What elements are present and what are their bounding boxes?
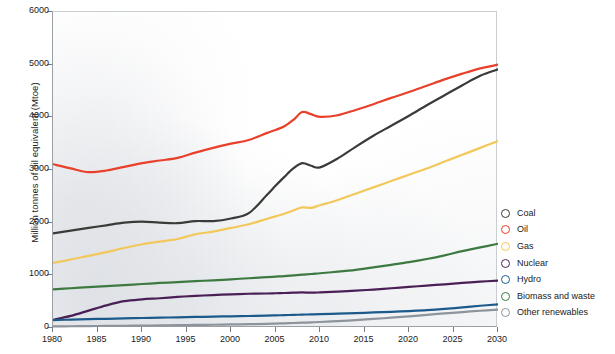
series-lines	[53, 12, 498, 328]
x-axis-tick-label: 1985	[77, 334, 117, 344]
y-axis-tick-label: 6000	[3, 5, 49, 15]
x-axis-tick	[319, 327, 320, 332]
x-axis-tick-label: 1980	[32, 334, 72, 344]
chart-figure: Million tonnes of oil equivalent (Mtoe) …	[0, 0, 615, 354]
figure-caption	[6, 347, 336, 354]
y-axis-tick-label: 2000	[3, 216, 49, 226]
x-axis-tick	[97, 327, 98, 332]
legend-item-nuclear[interactable]: Nuclear	[501, 255, 595, 272]
y-axis-tick-label: 0	[3, 321, 49, 331]
x-axis-tick	[186, 327, 187, 332]
x-axis-tick	[364, 327, 365, 332]
series-line-coal	[53, 69, 498, 233]
y-axis-tick-label: 5000	[3, 58, 49, 68]
y-axis-tick-label: 3000	[3, 163, 49, 173]
legend-marker-icon	[501, 209, 510, 218]
series-line-gas	[53, 141, 498, 263]
legend-item-coal[interactable]: Coal	[501, 205, 595, 222]
series-line-hydro	[53, 304, 498, 320]
x-axis-tick-label: 1995	[166, 334, 206, 344]
legend-item-hydro[interactable]: Hydro	[501, 271, 595, 288]
x-axis-tick	[275, 327, 276, 332]
legend-item-label: Coal	[517, 209, 536, 218]
x-axis-tick	[497, 327, 498, 332]
chart-legend: CoalOilGasNuclearHydroBiomass and wasteO…	[501, 205, 595, 321]
plot-area	[52, 11, 497, 327]
x-axis-tick-label: 2005	[255, 334, 295, 344]
x-axis-tick-label: 2020	[388, 334, 428, 344]
legend-item-label: Nuclear	[517, 259, 548, 268]
x-axis-tick-label: 2030	[477, 334, 517, 344]
legend-item-biomass-and-waste[interactable]: Biomass and waste	[501, 288, 595, 305]
x-axis-tick-label: 2015	[344, 334, 384, 344]
x-axis-tick	[141, 327, 142, 332]
legend-item-other-renewables[interactable]: Other renewables	[501, 305, 595, 322]
x-axis-tick-label: 2025	[433, 334, 473, 344]
legend-marker-icon	[501, 225, 510, 234]
legend-item-oil[interactable]: Oil	[501, 222, 595, 239]
legend-item-gas[interactable]: Gas	[501, 238, 595, 255]
series-line-oil	[53, 65, 498, 173]
legend-marker-icon	[501, 259, 510, 268]
legend-item-label: Biomass and waste	[517, 292, 595, 301]
x-axis-tick	[453, 327, 454, 332]
legend-marker-icon	[501, 292, 510, 301]
x-axis-tick	[230, 327, 231, 332]
y-axis-tick-label: 1000	[3, 268, 49, 278]
legend-item-label: Oil	[517, 225, 528, 234]
legend-item-label: Hydro	[517, 275, 541, 284]
x-axis-tick-label: 2010	[299, 334, 339, 344]
legend-item-label: Gas	[517, 242, 534, 251]
legend-item-label: Other renewables	[517, 308, 588, 317]
x-axis-tick	[52, 327, 53, 332]
legend-marker-icon	[501, 308, 510, 317]
y-axis-tick-label: 4000	[3, 110, 49, 120]
x-axis-tick-label: 2000	[210, 334, 250, 344]
x-axis-tick-label: 1990	[121, 334, 161, 344]
legend-marker-icon	[501, 275, 510, 284]
legend-marker-icon	[501, 242, 510, 251]
x-axis-tick	[408, 327, 409, 332]
series-line-biomass-and-waste	[53, 244, 498, 290]
